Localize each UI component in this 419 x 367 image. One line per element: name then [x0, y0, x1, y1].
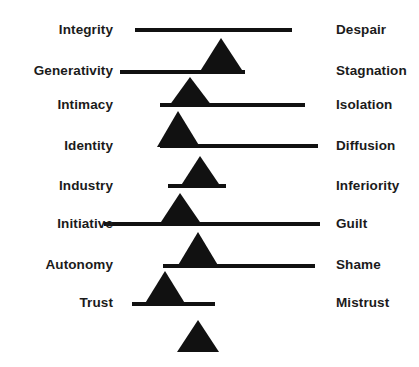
balance-beam [104, 222, 320, 226]
row-label-negative: Inferiority [336, 179, 399, 193]
row-label-negative: Mistrust [336, 296, 389, 310]
fulcrum-triangle [157, 111, 200, 147]
row-label-negative: Isolation [336, 98, 392, 112]
row-label-positive: Generativity [34, 64, 113, 78]
row-label-positive: Industry [59, 179, 113, 193]
row-label-positive: Initiative [57, 217, 113, 231]
psychosocial-stage-diagram: IntegrityDespairGenerativityStagnationIn… [0, 0, 419, 367]
row-label-negative: Shame [336, 258, 381, 272]
fulcrum-triangle [199, 38, 244, 73]
row-label-negative: Despair [336, 23, 386, 37]
row-label-negative: Stagnation [336, 64, 407, 78]
bottom-fulcrum-triangle [177, 320, 219, 352]
row-label-positive: Trust [79, 296, 113, 310]
row-label-positive: Autonomy [45, 258, 113, 272]
row-label-negative: Diffusion [336, 139, 395, 153]
row-label-negative: Guilt [336, 217, 367, 231]
row-label-positive: Intimacy [57, 98, 113, 112]
fulcrum-triangle [159, 193, 202, 225]
fulcrum-triangle [169, 77, 212, 106]
fulcrum-triangle [177, 232, 219, 267]
row-label-positive: Integrity [59, 23, 113, 37]
balance-beam [135, 28, 292, 32]
row-label-positive: Identity [64, 139, 113, 153]
fulcrum-triangle [180, 156, 221, 187]
fulcrum-triangle [144, 271, 186, 305]
